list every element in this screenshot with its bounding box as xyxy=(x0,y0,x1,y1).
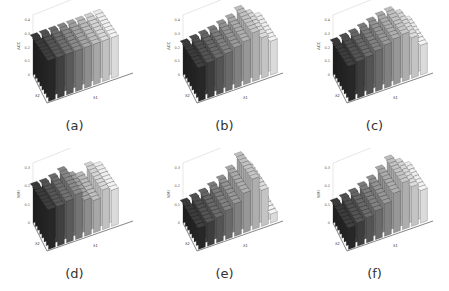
svg-text:0.3: 0.3 xyxy=(324,166,330,170)
svg-text:λ2: λ2 xyxy=(335,241,340,246)
chart-panel-b: 00.10.20.30.4ACCλ1λ2(b) xyxy=(150,0,299,145)
panel-caption: (e) xyxy=(150,266,299,281)
bar3d-chart: 00.10.20.30.4ACCλ1λ2 xyxy=(150,0,299,118)
bar3d-chart: 00.10.20.3NMIλ1λ2 xyxy=(300,148,449,266)
svg-text:ACC: ACC xyxy=(16,42,21,50)
svg-text:0.1: 0.1 xyxy=(24,59,30,63)
panel-caption: (a) xyxy=(0,118,149,133)
svg-text:NMI: NMI xyxy=(166,190,171,198)
svg-text:λ2: λ2 xyxy=(35,93,40,98)
svg-text:0.3: 0.3 xyxy=(324,32,330,36)
svg-text:0.2: 0.2 xyxy=(174,46,180,50)
svg-text:0.3: 0.3 xyxy=(24,166,30,170)
svg-text:0.2: 0.2 xyxy=(24,184,30,188)
svg-text:λ2: λ2 xyxy=(35,241,40,246)
svg-text:0.2: 0.2 xyxy=(174,184,180,188)
panel-caption: (c) xyxy=(300,118,449,133)
svg-text:0: 0 xyxy=(328,221,330,225)
bar3d-chart: 00.10.20.30.4ACCλ1λ2 xyxy=(0,0,149,118)
bar3d-chart: 00.10.20.3NMIλ1λ2 xyxy=(150,148,299,266)
svg-text:λ2: λ2 xyxy=(335,93,340,98)
chart-panel-d: 00.10.20.3NMIλ1λ2(d) xyxy=(0,148,149,291)
svg-text:λ1: λ1 xyxy=(393,95,398,100)
chart-panel-f: 00.10.20.3NMIλ1λ2(f) xyxy=(300,148,449,291)
svg-text:λ1: λ1 xyxy=(243,95,248,100)
svg-text:0.1: 0.1 xyxy=(174,59,180,63)
svg-text:0.1: 0.1 xyxy=(324,59,330,63)
svg-text:λ1: λ1 xyxy=(93,243,98,248)
svg-text:0.1: 0.1 xyxy=(174,203,180,207)
svg-text:0.1: 0.1 xyxy=(324,203,330,207)
svg-text:0: 0 xyxy=(28,221,30,225)
chart-panel-a: 00.10.20.30.4ACCλ1λ2(a) xyxy=(0,0,149,145)
svg-text:0: 0 xyxy=(178,73,180,77)
svg-text:0.4: 0.4 xyxy=(324,18,330,22)
svg-text:0.2: 0.2 xyxy=(24,46,30,50)
svg-text:0.2: 0.2 xyxy=(324,184,330,188)
svg-text:0.1: 0.1 xyxy=(24,203,30,207)
svg-text:0.4: 0.4 xyxy=(174,18,180,22)
svg-text:λ2: λ2 xyxy=(185,93,190,98)
chart-panel-c: 00.10.20.30.4ACCλ1λ2(c) xyxy=(300,0,449,145)
svg-text:0: 0 xyxy=(28,73,30,77)
bar3d-chart: 00.10.20.30.4ACCλ1λ2 xyxy=(300,0,449,118)
svg-text:ACC: ACC xyxy=(316,42,321,50)
svg-text:0.3: 0.3 xyxy=(24,32,30,36)
svg-text:0.3: 0.3 xyxy=(174,32,180,36)
chart-panel-e: 00.10.20.3NMIλ1λ2(e) xyxy=(150,148,299,291)
bar3d-chart: 00.10.20.3NMIλ1λ2 xyxy=(0,148,149,266)
svg-text:0.4: 0.4 xyxy=(24,18,30,22)
svg-text:λ2: λ2 xyxy=(185,241,190,246)
svg-text:λ1: λ1 xyxy=(243,243,248,248)
svg-text:0: 0 xyxy=(178,221,180,225)
svg-text:0: 0 xyxy=(328,73,330,77)
svg-text:λ1: λ1 xyxy=(93,95,98,100)
svg-text:ACC: ACC xyxy=(166,42,171,50)
svg-text:NMI: NMI xyxy=(316,190,321,198)
panel-caption: (f) xyxy=(300,266,449,281)
svg-text:NMI: NMI xyxy=(16,190,21,198)
svg-text:λ1: λ1 xyxy=(393,243,398,248)
panel-caption: (b) xyxy=(150,118,299,133)
panel-caption: (d) xyxy=(0,266,149,281)
svg-text:0.2: 0.2 xyxy=(324,46,330,50)
svg-text:0.3: 0.3 xyxy=(174,166,180,170)
